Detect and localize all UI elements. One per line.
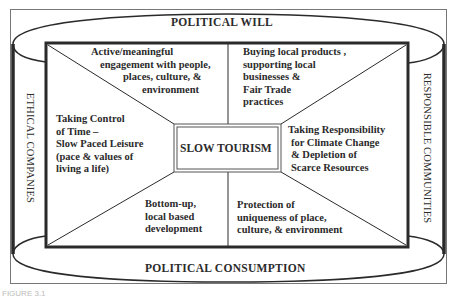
label-political-will: POLITICAL WILL: [171, 16, 273, 28]
segment-line: development: [145, 223, 202, 236]
segment-line: living a life): [56, 163, 143, 176]
segment-line: Taking Responsibility: [288, 124, 385, 137]
segment-line: Bottom-up,: [145, 198, 202, 211]
segment-line: Fair Trade: [243, 84, 346, 97]
segment-line: businesses &: [243, 71, 346, 84]
segment-line: (pace & values of: [56, 151, 143, 164]
top-ellipse-left-lower: [13, 44, 46, 62]
segment-line: for Climate Change: [288, 137, 385, 150]
segment-bottom-right: Protection of uniqueness of place, cultu…: [237, 199, 342, 237]
bottom-ellipse-left-upper: [13, 236, 46, 254]
segment-line: Protection of: [237, 199, 342, 212]
segment-right: Taking Responsibility for Climate Change…: [288, 124, 385, 174]
label-ethical-companies: ETHICAL COMPANIES: [25, 93, 36, 203]
segment-top-left: Active/meaningful engagement with people…: [91, 46, 211, 96]
label-political-consumption: POLITICAL CONSUMPTION: [145, 262, 306, 274]
segment-bottom-left: Bottom-up, local based development: [145, 198, 202, 236]
center-slow-tourism: SLOW TOURISM: [180, 142, 272, 154]
segment-line: Slow Paced Leisure: [56, 138, 143, 151]
segment-line: practices: [243, 96, 346, 109]
segment-left: Taking Control of Time – Slow Paced Leis…: [56, 113, 143, 176]
segment-line: Scarce Resources: [288, 162, 385, 175]
segment-line: supporting local: [243, 59, 346, 72]
segment-line: environment: [91, 84, 211, 97]
segment-line: local based: [145, 211, 202, 224]
segment-line: uniqueness of place,: [237, 212, 342, 225]
segment-line: culture, & environment: [237, 224, 342, 237]
segment-line: & Depletion of: [288, 149, 385, 162]
label-responsible-communities: RESPONSIBLE COMMUNITIES: [422, 73, 433, 224]
segment-top-right: Buying local products , supporting local…: [243, 46, 346, 109]
segment-line: places, culture, &: [91, 71, 211, 84]
segment-line: Buying local products ,: [243, 46, 346, 59]
segment-line: Taking Control: [56, 113, 143, 126]
figure-caption: FIGURE 3.1: [2, 289, 46, 298]
segment-line: of Time –: [56, 126, 143, 139]
segment-line: Active/meaningful: [91, 46, 211, 59]
segment-line: engagement with people,: [91, 59, 211, 72]
